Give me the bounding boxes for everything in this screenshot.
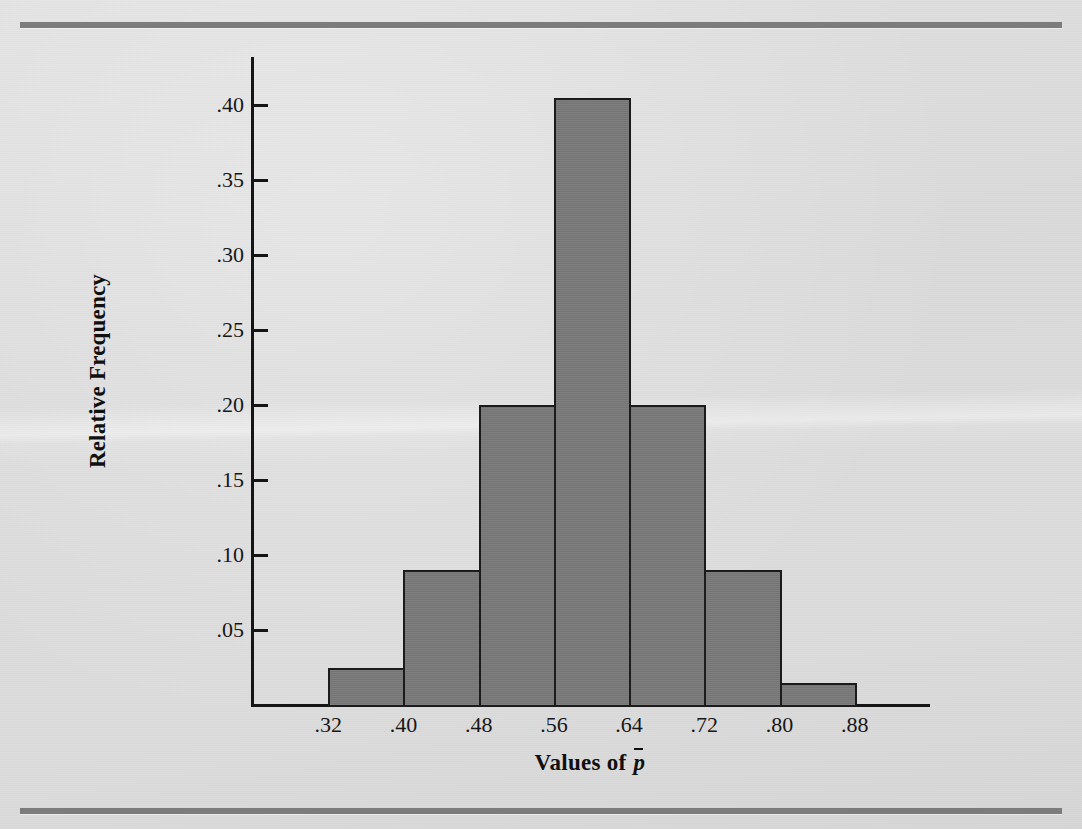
histogram-bar [328, 668, 405, 708]
x-tick-label: .64 [594, 714, 664, 736]
y-tick-mark [254, 104, 268, 107]
y-tick-mark [254, 404, 268, 407]
histogram-bar [479, 405, 556, 707]
x-tick-label: .48 [444, 714, 514, 736]
y-tick-label-wrap: .40 [186, 94, 244, 95]
y-axis-line [251, 57, 254, 707]
y-tick-mark [254, 554, 268, 557]
histogram-bar [704, 570, 781, 707]
y-tick-label: .10 [190, 544, 244, 566]
y-tick-label: .40 [190, 94, 244, 116]
x-tick-label: .56 [519, 714, 589, 736]
y-tick-mark [254, 254, 268, 257]
y-tick-label: .15 [190, 469, 244, 491]
y-tick-mark [254, 179, 268, 182]
histogram-bar [554, 98, 631, 708]
y-tick-mark [254, 629, 268, 632]
y-tick-label: .05 [190, 619, 244, 641]
y-axis-title: Relative Frequency [85, 231, 111, 511]
y-tick-mark [254, 479, 268, 482]
y-tick-label: .30 [190, 244, 244, 266]
plot-area: .05.10.15.20.25.30.35.40 .32.40.48.56.64… [0, 28, 1082, 808]
histogram-bar [780, 683, 857, 708]
y-tick-label-wrap: .10 [186, 544, 244, 545]
x-tick-label: .32 [293, 714, 363, 736]
x-tick-label: .72 [669, 714, 739, 736]
y-tick-label: .35 [190, 169, 244, 191]
x-axis-title: Values of p [251, 750, 930, 776]
y-tick-label-wrap: .05 [186, 619, 244, 620]
x-axis-title-symbol: p [633, 750, 647, 775]
y-tick-label-wrap: .25 [186, 319, 244, 320]
histogram-figure: .05.10.15.20.25.30.35.40 .32.40.48.56.64… [0, 28, 1082, 808]
y-tick-mark [254, 329, 268, 332]
y-tick-label-wrap: .15 [186, 469, 244, 470]
histogram-bar [403, 570, 480, 707]
x-tick-label: .88 [820, 714, 890, 736]
y-tick-label: .20 [190, 394, 244, 416]
y-tick-label: .25 [190, 319, 244, 341]
bottom-horizontal-rule [20, 808, 1062, 814]
histogram-bar [629, 405, 706, 707]
y-tick-label-wrap: .30 [186, 244, 244, 245]
x-tick-label: .40 [368, 714, 438, 736]
x-axis-title-prefix: Values of [535, 750, 633, 775]
x-tick-label: .80 [745, 714, 815, 736]
y-tick-label-wrap: .35 [186, 169, 244, 170]
y-tick-label-wrap: .20 [186, 394, 244, 395]
